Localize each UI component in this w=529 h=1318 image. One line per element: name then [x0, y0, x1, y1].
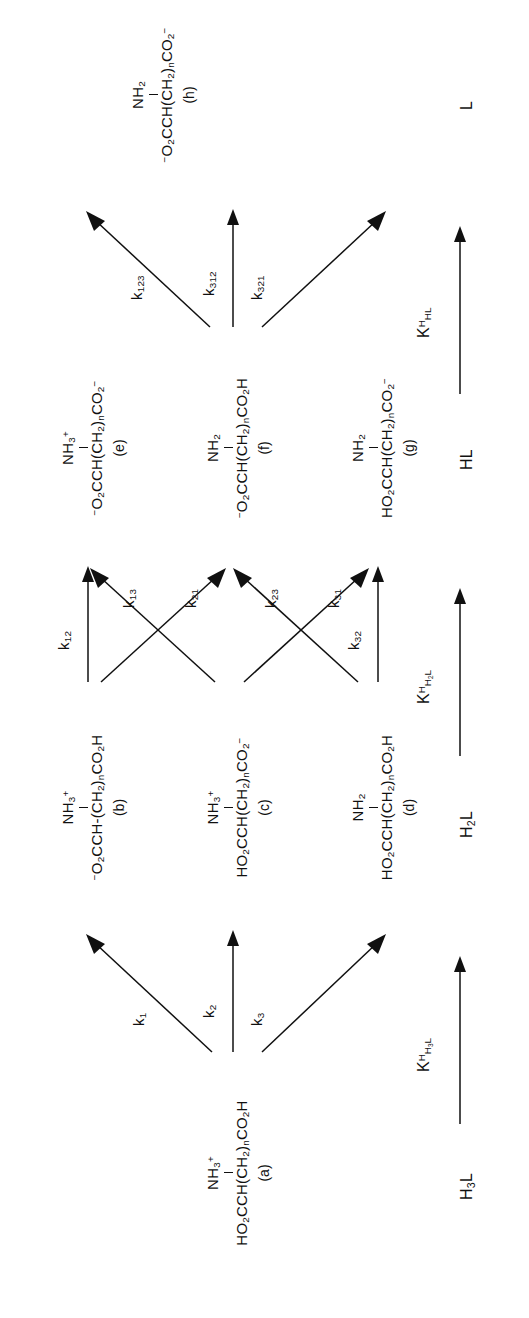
species-a-tag: (a): [257, 1068, 272, 1278]
species-b-bond: [79, 807, 88, 808]
species-f-amine: NH2: [205, 338, 223, 558]
species-e-tag: (e): [112, 338, 127, 558]
species-a-amine: NH3+: [205, 1068, 223, 1278]
species-a-bond: [224, 1173, 233, 1174]
species-b: NH3+ −O2CCH-(CH2)nCO2H (b): [60, 695, 126, 920]
rate-label-k2: k2: [200, 1005, 218, 1018]
species-c: NH3+ HO2CCH(CH2)nCO2− (c): [205, 695, 271, 920]
species-f-tag: (f): [257, 338, 272, 558]
arrow-k3: [230, 920, 405, 1060]
species-h-tag: (h): [182, 0, 197, 200]
rate-label-k1: k1: [130, 1013, 148, 1026]
rate-label-k123: k123: [128, 275, 146, 300]
species-d-bond: [369, 807, 378, 808]
species-c-tag: (c): [257, 695, 272, 920]
class-label-hl: HL: [458, 449, 476, 470]
arrow-keq-h2l: [440, 580, 480, 760]
keq-label-h2l: KHH2L: [415, 670, 434, 704]
rate-label-k21: k21: [182, 589, 200, 608]
class-label-h2l: H2L: [458, 811, 477, 838]
keq-label-hl: KHHL: [415, 308, 433, 338]
rate-label-k12: k12: [55, 631, 73, 650]
species-h-amine: NH2: [130, 0, 148, 200]
species-e-backbone: −O2CCH(CH2)nCO2−: [89, 338, 107, 558]
figure-page: NH3+ HO2CCH(CH2)nCO2H (a) NH3+ −O2CCH-(C…: [0, 0, 529, 1318]
species-g-bond: [369, 448, 378, 449]
rate-label-k312: k312: [200, 271, 218, 296]
rate-label-k321: k321: [248, 275, 266, 300]
species-b-amine: NH3+: [60, 695, 78, 920]
species-c-amine: NH3+: [205, 695, 223, 920]
scheme-canvas: NH3+ HO2CCH(CH2)nCO2H (a) NH3+ −O2CCH-(C…: [0, 0, 529, 1318]
species-g-amine: NH2: [350, 338, 368, 558]
species-c-bond: [224, 807, 233, 808]
class-label-l: L: [458, 101, 476, 110]
arrow-k32: [340, 558, 410, 688]
species-d-backbone: HO2CCH(CH2)nCO2H: [379, 695, 397, 920]
species-a-backbone: HO2CCH(CH2)nCO2H: [234, 1068, 252, 1278]
species-g-tag: (g): [402, 338, 417, 558]
rate-label-k32: k32: [345, 631, 363, 650]
species-f: NH2 −O2CCH(CH2)nCO2H (f): [205, 338, 271, 558]
class-label-h3l: H3L: [458, 1173, 477, 1200]
arrow-k321: [230, 198, 405, 333]
species-h-bond: [149, 95, 158, 96]
species-h: NH2 −O2CCH(CH2)nCO2− (h): [130, 0, 196, 200]
arrow-k21: [85, 558, 245, 688]
species-e-bond: [79, 448, 88, 449]
species-f-bond: [224, 448, 233, 449]
species-g-backbone: HO2CCH(CH2)nCO2−: [379, 338, 397, 558]
species-h-backbone: −O2CCH(CH2)nCO2−: [159, 0, 177, 200]
species-a: NH3+ HO2CCH(CH2)nCO2H (a): [205, 1068, 271, 1278]
rate-label-k3: k3: [248, 1013, 266, 1026]
species-f-backbone: −O2CCH(CH2)nCO2H: [234, 338, 252, 558]
species-c-backbone: HO2CCH(CH2)nCO2−: [234, 695, 252, 920]
species-b-backbone: −O2CCH-(CH2)nCO2H: [89, 695, 107, 920]
arrow-keq-h3l: [440, 948, 480, 1128]
keq-label-h3l: KHH3L: [415, 1038, 434, 1072]
arrow-keq-hl: [440, 218, 480, 398]
species-b-tag: (b): [112, 695, 127, 920]
species-g: NH2 HO2CCH(CH2)nCO2− (g): [350, 338, 416, 558]
species-e: NH3+ −O2CCH(CH2)nCO2− (e): [60, 338, 126, 558]
species-d: NH2 HO2CCH(CH2)nCO2H (d): [350, 695, 416, 920]
species-e-amine: NH3+: [60, 338, 78, 558]
species-d-amine: NH2: [350, 695, 368, 920]
species-d-tag: (d): [402, 695, 417, 920]
